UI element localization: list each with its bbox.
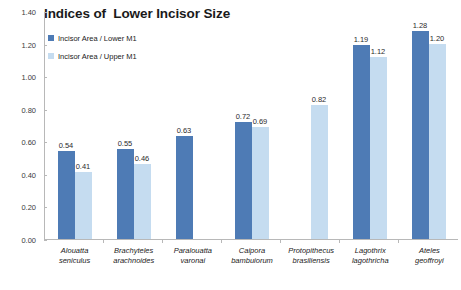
x-axis-label: Paralouattavaronai	[163, 246, 222, 266]
bar-lower-m1[interactable]: 1.19	[353, 45, 370, 239]
x-axis-label-genus: Protopithecus	[282, 246, 341, 256]
bar-lower-m1[interactable]: 0.55	[117, 149, 134, 239]
bar-pair: 1.281.20	[399, 12, 458, 239]
x-axis-label: Caiporabambuiorum	[222, 246, 281, 266]
bar-upper-m1[interactable]: 0.82	[311, 105, 328, 239]
bar-pair: 1.191.12	[340, 12, 399, 239]
x-axis-label-genus: Caipora	[222, 246, 281, 256]
bar-upper-m1[interactable]: 1.12	[370, 57, 387, 239]
y-axis-tick-label: 0.60	[2, 138, 36, 147]
bar-value-label: 0.41	[76, 162, 91, 171]
x-axis-label-species: seniculus	[45, 256, 104, 266]
bar-rect	[412, 31, 429, 239]
x-axis-label-species: lagothricha	[341, 256, 400, 266]
bar-group: 0.720.69	[222, 12, 281, 239]
plot-area: 0.000.200.400.600.801.001.201.40 0.540.4…	[44, 12, 458, 240]
x-axis-label: Alouattaseniculus	[45, 246, 104, 266]
x-axis-label-genus: Ateles	[400, 246, 459, 256]
x-axis-tick-mark	[221, 239, 222, 243]
x-axis-tick-mark	[398, 239, 399, 243]
bar-lower-m1[interactable]: 0.72	[235, 122, 252, 239]
bar-group: 0.82	[281, 12, 340, 239]
x-axis-label: Protopithecusbrasiliensis	[282, 246, 341, 266]
x-axis-label-genus: Brachyteles	[104, 246, 163, 256]
bar-value-label: 1.28	[413, 21, 428, 30]
x-axis-label-genus: Paralouatta	[163, 246, 222, 256]
bar-value-label: 0.54	[59, 141, 74, 150]
x-axis-label-genus: Lagothrix	[341, 246, 400, 256]
y-axis-tick-label: 0.00	[2, 236, 36, 245]
bar-rect	[252, 127, 269, 239]
bar-lower-m1[interactable]: 0.63	[176, 136, 193, 239]
bar-rect	[235, 122, 252, 239]
bar-value-label: 1.19	[354, 35, 369, 44]
x-axis-label: Atelesgeoffroyi	[400, 246, 459, 266]
bar-group: 1.281.20	[399, 12, 458, 239]
bar-rect	[75, 172, 92, 239]
bar-value-label: 1.12	[371, 47, 386, 56]
bar-lower-m1[interactable]: 0.54	[58, 151, 75, 239]
bar-value-label: 0.82	[312, 95, 327, 104]
bar-upper-m1[interactable]: 0.41	[75, 172, 92, 239]
y-axis-tick-label: 1.40	[2, 8, 36, 17]
bar-pair: 0.540.41	[45, 12, 104, 239]
bar-rect	[353, 45, 370, 239]
x-axis-tick-mark	[162, 239, 163, 243]
x-axis-label-species: brasiliensis	[282, 256, 341, 266]
y-axis-tick-label: 0.80	[2, 105, 36, 114]
bar-upper-m1[interactable]: 1.20	[429, 44, 446, 239]
bar-group: 0.63	[163, 12, 222, 239]
bar-rect	[117, 149, 134, 239]
bar-value-label: 0.63	[177, 126, 192, 135]
x-axis-tick-mark	[103, 239, 104, 243]
x-axis-line	[44, 239, 458, 240]
bar-pair: 0.63	[163, 12, 222, 239]
bar-value-label: 0.69	[253, 117, 268, 126]
bar-group: 0.550.46	[104, 12, 163, 239]
bar-upper-m1[interactable]: 0.69	[252, 127, 269, 239]
y-axis-tick-label: 0.40	[2, 170, 36, 179]
x-axis-label-genus: Alouatta	[45, 246, 104, 256]
x-axis-label-species: geoffroyi	[400, 256, 459, 266]
bar-value-label: 0.72	[236, 112, 251, 121]
bar-value-label: 0.55	[118, 139, 133, 148]
x-axis-labels: AlouattaseniculusBrachytelesarachnoidesP…	[45, 246, 459, 266]
y-axis-tick-label: 1.00	[2, 73, 36, 82]
bar-value-label: 1.20	[430, 34, 445, 43]
bar-pair: 0.550.46	[104, 12, 163, 239]
bar-pair: 0.720.69	[222, 12, 281, 239]
y-axis-tick-label: 1.20	[2, 40, 36, 49]
bar-group: 0.540.41	[45, 12, 104, 239]
y-axis-tick-mark	[44, 240, 47, 241]
x-axis-label: Brachytelesarachnoides	[104, 246, 163, 266]
bar-rect	[134, 164, 151, 239]
bar-pair: 0.82	[281, 12, 340, 239]
bar-rect	[176, 136, 193, 239]
x-axis-label-species: bambuiorum	[222, 256, 281, 266]
bar-lower-m1[interactable]: 1.28	[412, 31, 429, 239]
bar-groups: 0.540.410.550.460.630.720.690.821.191.12…	[45, 12, 458, 239]
bar-chart: Indices of Lower Incisor Size Incisor Ar…	[0, 0, 461, 290]
x-axis-tick-mark	[339, 239, 340, 243]
bar-rect	[311, 105, 328, 239]
bar-rect	[58, 151, 75, 239]
bar-upper-m1[interactable]: 0.46	[134, 164, 151, 239]
x-axis-label-species: arachnoides	[104, 256, 163, 266]
bar-rect	[429, 44, 446, 239]
x-axis-tick-mark	[280, 239, 281, 243]
x-axis-label: Lagothrixlagothricha	[341, 246, 400, 266]
x-axis-label-species: varonai	[163, 256, 222, 266]
bar-value-label: 0.46	[135, 154, 150, 163]
y-axis-tick-label: 0.20	[2, 203, 36, 212]
bar-group: 1.191.12	[340, 12, 399, 239]
bar-rect	[370, 57, 387, 239]
